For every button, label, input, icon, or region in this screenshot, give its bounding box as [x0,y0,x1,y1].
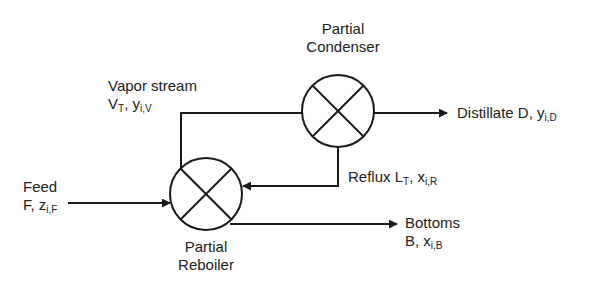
feed-label: Feed F, zi,F [23,178,57,214]
flow-lines [0,0,603,287]
vapor-stream-label: Vapor stream VT, yi,V [108,77,197,113]
reboiler-label-line2: Reboiler [166,256,246,274]
distillate-label: Distillate D, yi,D [457,104,557,122]
reboiler-label-line1: Partial [166,238,246,256]
diagram-canvas: Partial Condenser Partial Reboiler Vapor… [0,0,603,287]
vapor-stream-vars: VT, yi,V [108,95,197,113]
bottoms-label: Bottoms B, xi,B [405,214,460,250]
reflux-label: Reflux LT, xi,R [348,168,437,186]
vapor-stream-name: Vapor stream [108,77,197,95]
reboiler-label: Partial Reboiler [166,238,246,274]
feed-vars: F, zi,F [23,196,57,214]
condenser-symbol [302,75,374,147]
condenser-label-line2: Condenser [303,38,383,56]
bottoms-name: Bottoms [405,214,460,232]
bottoms-vars: B, xi,B [405,232,460,250]
reflux-line [243,147,338,186]
feed-name: Feed [23,178,57,196]
condenser-label: Partial Condenser [303,20,383,56]
condenser-label-line1: Partial [303,20,383,38]
vapor-stream-line [181,113,302,169]
